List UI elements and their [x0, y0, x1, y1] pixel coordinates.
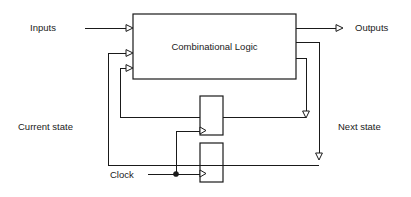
- inputs-arrowhead-icon: [126, 25, 133, 32]
- feedback-outer-arrowhead-icon: [126, 50, 133, 57]
- inputs-label: Inputs: [30, 22, 56, 33]
- next-state-label: Next state: [338, 121, 381, 132]
- block-diagram-canvas: Combinational Logic: [0, 0, 411, 197]
- combinational-logic-label: Combinational Logic: [171, 41, 257, 52]
- next-state-inner-line: [296, 58, 306, 114]
- current-state-label: Current state: [18, 121, 73, 132]
- outputs-arrowhead-icon: [336, 25, 343, 32]
- clock-wire: [148, 131, 200, 177]
- inputs-wire: [85, 25, 133, 32]
- flip-flop-lower-rect: [200, 143, 223, 182]
- outputs-wire: [296, 25, 343, 32]
- clock-branch-line: [176, 131, 200, 174]
- outputs-label: Outputs: [355, 22, 389, 33]
- next-state-outer-line: [296, 42, 319, 156]
- flip-flop-upper-block: [200, 96, 223, 135]
- clock-label: Clock: [110, 169, 134, 180]
- sequential-circuit-diagram: Combinational Logic: [0, 0, 411, 197]
- combinational-logic-block: Combinational Logic: [133, 14, 296, 79]
- clock-junction-dot-icon: [173, 171, 178, 176]
- feedback-inner-arrowhead-icon: [126, 65, 133, 72]
- next-state-outer-arrowhead-icon: [316, 153, 323, 160]
- flip-flop-lower-block: [200, 143, 223, 182]
